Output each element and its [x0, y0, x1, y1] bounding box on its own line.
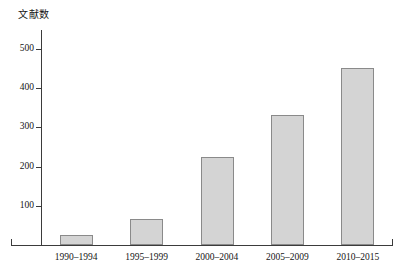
y-axis-tick-label-text: 100	[0, 201, 34, 211]
y-axis-tick	[36, 49, 42, 50]
y-axis-line	[41, 30, 42, 246]
x-axis-tick-label: 2000–2004	[182, 252, 252, 263]
x-axis-tick-label: 2005–2009	[252, 252, 322, 263]
x-axis-tick-label: 1995–1999	[111, 252, 181, 263]
y-axis-tick	[36, 206, 42, 207]
y-axis-title: 文献数	[18, 6, 50, 21]
y-axis-tick-label-text: 300	[0, 122, 34, 132]
y-axis-tick-label: 400	[0, 83, 34, 93]
y-axis-tick-label: 500	[0, 44, 34, 54]
y-axis-tick-label-text: 400	[0, 83, 34, 93]
y-axis-tick-label-text: 500	[0, 44, 34, 54]
bar	[60, 235, 93, 245]
x-axis-tick-label: 2010–2015	[323, 252, 393, 263]
bar	[271, 115, 304, 245]
bar	[341, 68, 374, 245]
y-axis-tick-label: 300	[0, 122, 34, 132]
y-axis-tick-label-text: 200	[0, 162, 34, 172]
y-axis-tick-label: 100	[0, 201, 34, 211]
bar	[130, 219, 163, 245]
bar	[201, 157, 234, 245]
x-axis-left-cap	[11, 239, 12, 246]
y-axis-tick	[36, 127, 42, 128]
x-axis-line	[11, 245, 393, 246]
y-axis-tick-label: 200	[0, 162, 34, 172]
bar-chart: 文献数 100200300400500 1990–19941995–199920…	[0, 0, 413, 277]
y-axis-tick	[36, 167, 42, 168]
x-axis-tick-label: 1990–1994	[41, 252, 111, 263]
y-axis-tick	[36, 88, 42, 89]
x-axis-right-cap	[392, 239, 393, 246]
